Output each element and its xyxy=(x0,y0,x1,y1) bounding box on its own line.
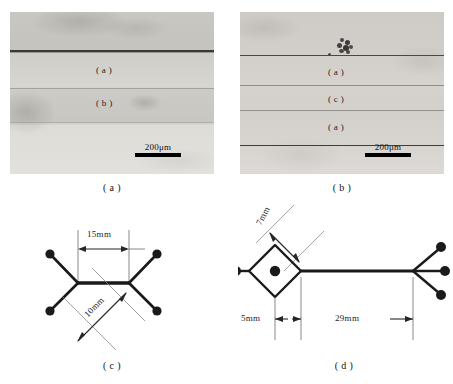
defect-speck xyxy=(340,38,344,42)
panel-d-fork-upper xyxy=(413,249,439,271)
panel-c-specimen xyxy=(45,249,161,315)
panel-c-node-upper-left xyxy=(45,249,54,258)
panel-a-caption: ( a ) xyxy=(8,182,216,193)
panel-b: ( a ) ( c ) ( a ) 200μm ( b ) xyxy=(238,10,446,205)
panel-c-node-lower-left xyxy=(45,306,54,315)
panel-c: 15mm 10mm ( c ) xyxy=(8,205,216,380)
panel-d-label-29mm: 29mm xyxy=(335,313,359,323)
defect-speck xyxy=(337,43,342,48)
panel-d-specimen xyxy=(238,242,450,300)
panel-d-node-left xyxy=(238,266,241,276)
micrograph-a-layer-label-b: ( b ) xyxy=(96,98,113,108)
panel-d-node-fork-lower xyxy=(436,290,446,300)
micrograph-b-interface-line-2 xyxy=(240,85,444,86)
panel-b-caption: ( b ) xyxy=(238,182,446,193)
panel-d-label-5mm: 5mm xyxy=(241,313,260,323)
panel-b-micrograph: ( a ) ( c ) ( a ) 200μm xyxy=(240,12,444,174)
panel-a-scalebar-bar xyxy=(135,153,181,157)
panel-b-scalebar-bar xyxy=(365,153,411,157)
panel-d-dimension-29mm-arrow xyxy=(390,316,413,322)
figure-root: ( a ) ( b ) 200μm ( a ) xyxy=(0,0,453,384)
panel-d-ext-7mm-b xyxy=(284,231,324,271)
panel-d-node-fork-middle xyxy=(440,266,450,276)
panel-d-caption: ( d ) xyxy=(238,360,450,371)
panel-a-scalebar-label: 200μm xyxy=(128,142,188,152)
micrograph-a-layer-label-a: ( a ) xyxy=(96,65,112,75)
defect-speck xyxy=(339,49,344,53)
micrograph-b-layer-label-a1: ( a ) xyxy=(328,67,344,77)
panel-c-label-15mm: 15mm xyxy=(87,229,111,239)
panel-c-arm-lower-left xyxy=(50,283,78,311)
micrograph-a-interface-line-2 xyxy=(10,88,214,89)
panel-c-node-upper-right xyxy=(152,249,161,258)
panel-c-arm-lower-right xyxy=(129,283,157,311)
panel-a: ( a ) ( b ) 200μm ( a ) xyxy=(8,10,216,205)
panel-d: 7mm 5mm 29mm ( d ) xyxy=(238,205,450,380)
panel-c-dimension-15mm-arrow xyxy=(78,246,129,252)
panel-a-scalebar: 200μm xyxy=(128,142,188,157)
micrograph-b-interface-line-3 xyxy=(240,110,444,111)
panel-d-fork-lower xyxy=(413,271,439,293)
panel-d-drawing xyxy=(238,205,450,380)
panel-d-node-fork-upper xyxy=(436,242,446,252)
defect-speck xyxy=(346,50,350,54)
micrograph-a-interface-line-1 xyxy=(10,50,214,52)
panel-b-scalebar-label: 200μm xyxy=(358,142,418,152)
panel-d-node-center xyxy=(270,266,280,276)
panel-c-node-lower-right xyxy=(152,306,161,315)
panel-c-drawing xyxy=(8,205,216,380)
panel-d-dimension-5mm-arrow xyxy=(275,316,301,322)
panel-a-micrograph: ( a ) ( b ) 200μm xyxy=(10,12,214,174)
panel-c-arm-upper-left xyxy=(50,254,78,283)
defect-speck xyxy=(328,53,331,56)
defect-speck xyxy=(349,45,353,49)
micrograph-a-interface-line-3 xyxy=(10,122,214,123)
micrograph-b-layer-label-a2: ( a ) xyxy=(328,122,344,132)
panel-b-scalebar: 200μm xyxy=(358,142,418,157)
panel-c-arm-upper-right xyxy=(129,254,157,283)
panel-c-caption: ( c ) xyxy=(8,360,216,371)
micrograph-b-defect-cluster xyxy=(332,36,356,56)
micrograph-b-layer-label-c: ( c ) xyxy=(328,94,344,104)
